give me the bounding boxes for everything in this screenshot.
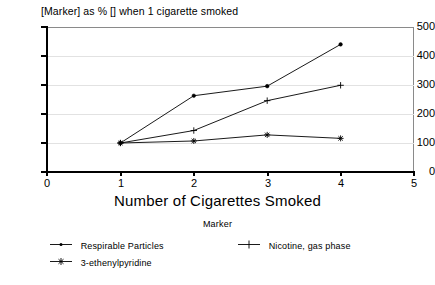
legend-item-respirable-particles[interactable]: Respirable Particles [50, 240, 164, 251]
legend-item-nicotine-gas-phase[interactable]: Nicotine, gas phase [238, 240, 351, 251]
legend-marker-dot-icon [50, 240, 72, 249]
legend-label: Respirable Particles [81, 241, 164, 251]
legend-item-3-ethenylpyridine[interactable]: 3-ethenylpyridine [50, 257, 152, 268]
legend-label: 3-ethenylpyridine [81, 258, 152, 268]
legend-title: Marker [0, 219, 435, 229]
series-2 [117, 132, 343, 146]
legend-marker-asterisk-icon [50, 257, 72, 266]
series-0 [119, 43, 343, 145]
chart-container: [Marker] as % [] when 1 cigarette smoked… [0, 0, 435, 285]
legend-label: Nicotine, gas phase [269, 241, 351, 251]
legend-marker-plus-icon [238, 240, 260, 249]
